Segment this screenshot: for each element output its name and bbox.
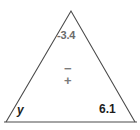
- bottom-left-variable-label: y: [17, 104, 24, 116]
- triangle-figure: -3.4 − + y 6.1: [0, 0, 140, 130]
- plus-sign-label: +: [64, 74, 72, 87]
- bottom-right-value-label: 6.1: [99, 103, 116, 115]
- apex-value-label: -3.4: [57, 30, 75, 41]
